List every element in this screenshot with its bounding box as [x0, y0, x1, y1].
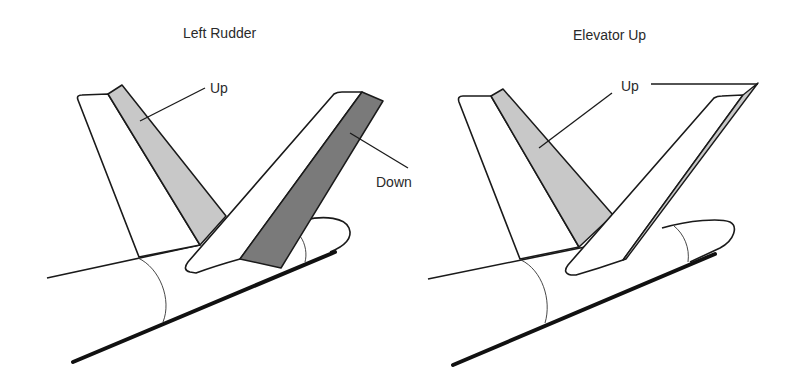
- elevator-surface: [623, 83, 758, 260]
- rudder-leader-line: [539, 93, 612, 148]
- elevator-up-diagram: [428, 83, 758, 365]
- tail-cone-seam: [674, 226, 688, 262]
- fuselage-seam: [138, 258, 166, 322]
- left-diagram-title: Left Rudder: [183, 26, 256, 40]
- left-elevator-label: Down: [376, 175, 412, 189]
- tail-cone-seam: [300, 236, 306, 262]
- rudder-leader-line: [140, 88, 205, 121]
- left-rudder-diagram: [47, 85, 408, 362]
- tail-cone: [662, 220, 734, 262]
- left-rudder-label: Up: [210, 81, 228, 95]
- fuselage-seam: [521, 260, 547, 323]
- right-surfaces-label: Up: [621, 79, 639, 93]
- diagram-canvas: Left Rudder Up Down Elevator Up Up: [0, 0, 796, 392]
- horizontal-stabilizer: [566, 95, 743, 275]
- fuselage-top-edge: [428, 247, 585, 279]
- elevator-leader-line: [350, 133, 408, 168]
- tail-cone: [305, 218, 350, 252]
- right-diagram-title: Elevator Up: [573, 28, 646, 42]
- tail-control-surfaces-illustration: [0, 0, 796, 392]
